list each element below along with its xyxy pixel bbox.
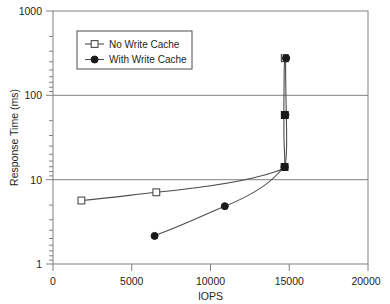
ytick-minor-group bbox=[49, 36, 53, 260]
x-axis-label: IOPS bbox=[198, 290, 223, 302]
xtick-label-20000: 20000 bbox=[351, 275, 380, 287]
xtick-label-5000: 5000 bbox=[120, 275, 144, 287]
data-point-with-write-cache-1 bbox=[151, 232, 158, 239]
legend-marker-filled-circle-icon bbox=[91, 56, 98, 63]
ytick-label-1: 1 bbox=[36, 258, 42, 270]
xtick-label-15000: 15000 bbox=[275, 275, 304, 287]
data-point-with-write-cache-4 bbox=[282, 111, 289, 118]
ytick-label-100: 100 bbox=[24, 89, 42, 101]
y-axis-label: Response Time (ms) bbox=[8, 89, 20, 186]
legend-marker-open-square-icon bbox=[91, 41, 98, 48]
ytick-label-1000: 1000 bbox=[19, 5, 43, 17]
series-line-with-write-cache bbox=[154, 58, 287, 236]
chart-container: 1000 100 10 1 0 5000 10000 15000 20000 I… bbox=[0, 0, 390, 304]
data-point-no-write-cache-2 bbox=[153, 189, 160, 196]
data-point-with-write-cache-3 bbox=[281, 163, 288, 170]
data-point-with-write-cache-2 bbox=[221, 203, 228, 210]
data-point-with-write-cache-5 bbox=[283, 55, 290, 62]
legend-label-with-write-cache: With Write Cache bbox=[109, 54, 187, 65]
xtick-label-10000: 10000 bbox=[196, 275, 225, 287]
response-time-vs-iops-chart: 1000 100 10 1 0 5000 10000 15000 20000 I… bbox=[0, 0, 390, 304]
xtick-label-0: 0 bbox=[50, 275, 56, 287]
xtick-group bbox=[53, 264, 368, 271]
data-point-no-write-cache-1 bbox=[78, 197, 85, 204]
legend-label-no-write-cache: No Write Cache bbox=[109, 39, 180, 50]
chart-legend: No Write Cache With Write Cache bbox=[77, 31, 192, 69]
ytick-label-10: 10 bbox=[30, 174, 42, 186]
